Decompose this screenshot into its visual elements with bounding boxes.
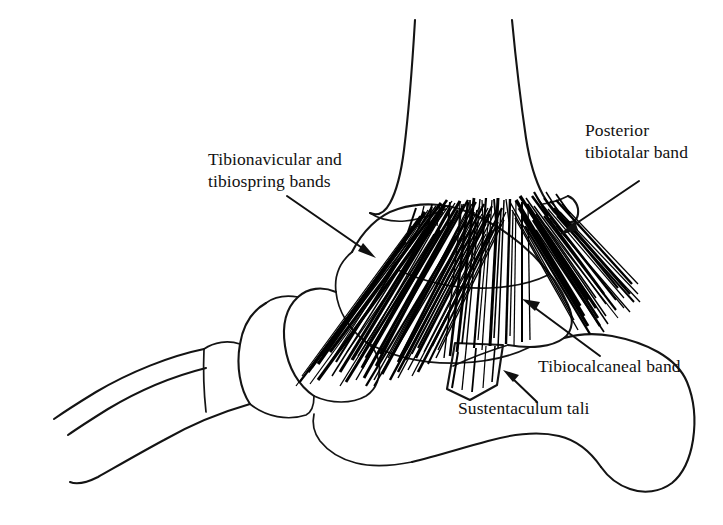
anatomical-figure: Tibionavicular and tibiospring bands Pos…	[0, 0, 723, 525]
tibiocalcaneal-label-line1: Tibiocalcaneal band	[538, 356, 681, 376]
tibionavicular-label-line2: tibiospring bands	[208, 171, 331, 191]
posterior-tibiotalar-label-line2: tibiotalar band	[585, 142, 688, 162]
ankle-deltoid-ligament-drawing: Tibionavicular and tibiospring bands Pos…	[0, 0, 723, 525]
tibionavicular-label-line1: Tibionavicular and	[208, 149, 342, 169]
figure-background	[0, 0, 723, 525]
sustentaculum-tali-label-line1: Sustentaculum tali	[458, 398, 590, 418]
posterior-tibiotalar-label-line1: Posterior	[585, 120, 649, 140]
